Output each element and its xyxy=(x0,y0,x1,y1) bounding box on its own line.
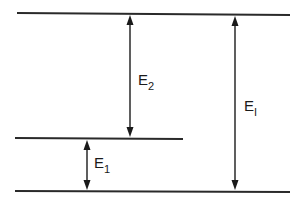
middle-level-line xyxy=(15,138,183,139)
e2-label: E2 xyxy=(138,71,154,92)
e1-arrow xyxy=(84,140,91,190)
e2-arrow xyxy=(127,15,134,137)
arrowhead-up-icon xyxy=(84,140,91,150)
ground-level-line xyxy=(15,191,290,192)
ei-arrow xyxy=(232,16,239,190)
arrowhead-up-icon xyxy=(232,16,239,26)
arrowhead-down-icon xyxy=(127,127,134,137)
arrowhead-down-icon xyxy=(232,180,239,190)
arrowhead-down-icon xyxy=(84,180,91,190)
energy-level-diagram: E2 E1 EI xyxy=(0,0,302,202)
e1-label: E1 xyxy=(94,154,110,175)
arrowhead-up-icon xyxy=(127,15,134,25)
ei-label: EI xyxy=(244,97,257,118)
upper-level-line xyxy=(17,13,290,15)
